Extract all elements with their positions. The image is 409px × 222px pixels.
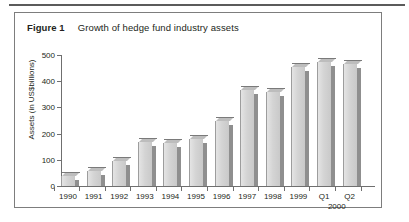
bar-top-edge <box>292 63 310 64</box>
y-axis-line <box>61 55 62 186</box>
y-tick-label: 400 <box>15 77 55 86</box>
x-tick <box>258 187 259 191</box>
x-tick <box>130 187 131 191</box>
y-tick <box>57 107 62 108</box>
bar-side-face <box>203 143 207 186</box>
bar-side-face <box>75 180 79 186</box>
x-tick-label: Q2 <box>344 192 355 201</box>
y-tick-label: 300 <box>15 103 55 112</box>
x-tick <box>284 187 285 191</box>
bar-top-edge <box>139 138 157 139</box>
figure-label: Figure 1 <box>27 22 65 33</box>
bar-side-face <box>357 68 361 186</box>
x-tick <box>233 187 234 191</box>
x-tick-label: 1991 <box>85 192 103 201</box>
bar <box>317 62 331 186</box>
bar-side-face <box>331 66 335 186</box>
figure-container: Figure 1Growth of hedge fund industry as… <box>0 0 409 222</box>
figure-caption: Figure 1Growth of hedge fund industry as… <box>27 22 239 33</box>
x-tick <box>79 187 80 191</box>
x-tick-label: 1998 <box>264 192 282 201</box>
bar-top-edge <box>216 117 234 118</box>
y-tick <box>57 81 62 82</box>
bar <box>189 139 203 186</box>
bar <box>112 161 126 186</box>
bar-side-face <box>126 165 130 186</box>
y-tick <box>57 134 62 135</box>
x-tick-label: 1996 <box>213 192 231 201</box>
y-tick-label: 200 <box>15 129 55 138</box>
bar-top-edge <box>241 86 259 87</box>
y-tick-label: 100 <box>15 155 55 164</box>
x-tick-label: 1994 <box>161 192 179 201</box>
bar <box>87 171 101 186</box>
x-axis-line <box>61 186 375 187</box>
bar-top-edge <box>62 172 80 173</box>
x-tick <box>309 187 310 191</box>
bar-side-face <box>229 125 233 187</box>
bar <box>163 143 177 186</box>
x-axis-group-label: 2000 <box>328 202 346 211</box>
bar-top-edge <box>164 139 182 140</box>
bar-side-face <box>177 147 181 186</box>
x-tick <box>105 187 106 191</box>
x-tick-label: 1997 <box>238 192 256 201</box>
x-tick-label: 1992 <box>110 192 128 201</box>
x-tick-label: Q1 <box>319 192 330 201</box>
x-tick <box>361 187 362 191</box>
x-tick <box>207 187 208 191</box>
bar-top-edge <box>88 167 106 168</box>
bar-side-face <box>152 146 156 186</box>
bar <box>291 67 305 186</box>
bar-top-edge <box>267 88 285 89</box>
bar <box>240 90 254 186</box>
bar-side-face <box>305 71 309 186</box>
x-tick <box>335 187 336 191</box>
bar-top-edge <box>318 58 336 59</box>
bar <box>61 176 75 186</box>
bar-top-edge <box>190 135 208 136</box>
x-tick-label: 1999 <box>289 192 307 201</box>
bar <box>138 142 152 186</box>
bar-chart: Assets (in US$billions) 0100200300400500… <box>15 39 383 209</box>
bar-side-face <box>101 175 105 186</box>
bar-top-edge <box>344 60 362 61</box>
y-tick <box>57 186 62 187</box>
bar <box>215 121 229 187</box>
figure-frame: Figure 1Growth of hedge fund industry as… <box>14 12 382 208</box>
figure-title: Growth of hedge fund industry assets <box>78 22 239 33</box>
x-tick <box>54 187 55 191</box>
x-tick <box>181 187 182 191</box>
bar-top-edge <box>113 157 131 158</box>
bar-side-face <box>254 94 258 186</box>
bar-side-face <box>280 96 284 186</box>
y-tick-label: 0 <box>15 182 55 191</box>
x-tick-label: 1995 <box>187 192 205 201</box>
page-top-rule <box>9 4 405 6</box>
bar <box>266 92 280 186</box>
y-tick-label: 500 <box>15 51 55 60</box>
y-tick <box>57 160 62 161</box>
x-tick-label: 1990 <box>59 192 77 201</box>
y-tick <box>57 55 62 56</box>
bar <box>343 64 357 186</box>
x-tick <box>156 187 157 191</box>
x-tick-label: 1993 <box>136 192 154 201</box>
